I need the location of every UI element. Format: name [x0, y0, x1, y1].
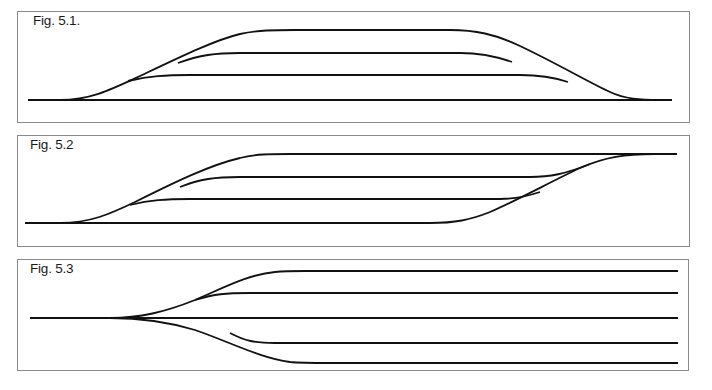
- figure-5-1-tracks: [28, 30, 672, 100]
- fig52-track-lower: [130, 192, 540, 205]
- fig51-track-middle: [178, 53, 512, 63]
- fig53-track-4: [230, 333, 678, 343]
- fig53-track-1: [110, 271, 678, 318]
- fig52-diverge-curve: [60, 154, 677, 223]
- fig51-track-top: [60, 30, 660, 100]
- figure-5-3-tracks: [30, 271, 678, 363]
- fig53-track-2: [195, 293, 678, 300]
- figure-5-2-tracks: [25, 154, 677, 223]
- fig52-track-middle: [180, 164, 590, 187]
- fig51-track-lower: [128, 75, 568, 82]
- fig52-main-line: [25, 154, 677, 223]
- track-diagrams: [0, 0, 712, 390]
- fig53-track-5: [110, 318, 678, 363]
